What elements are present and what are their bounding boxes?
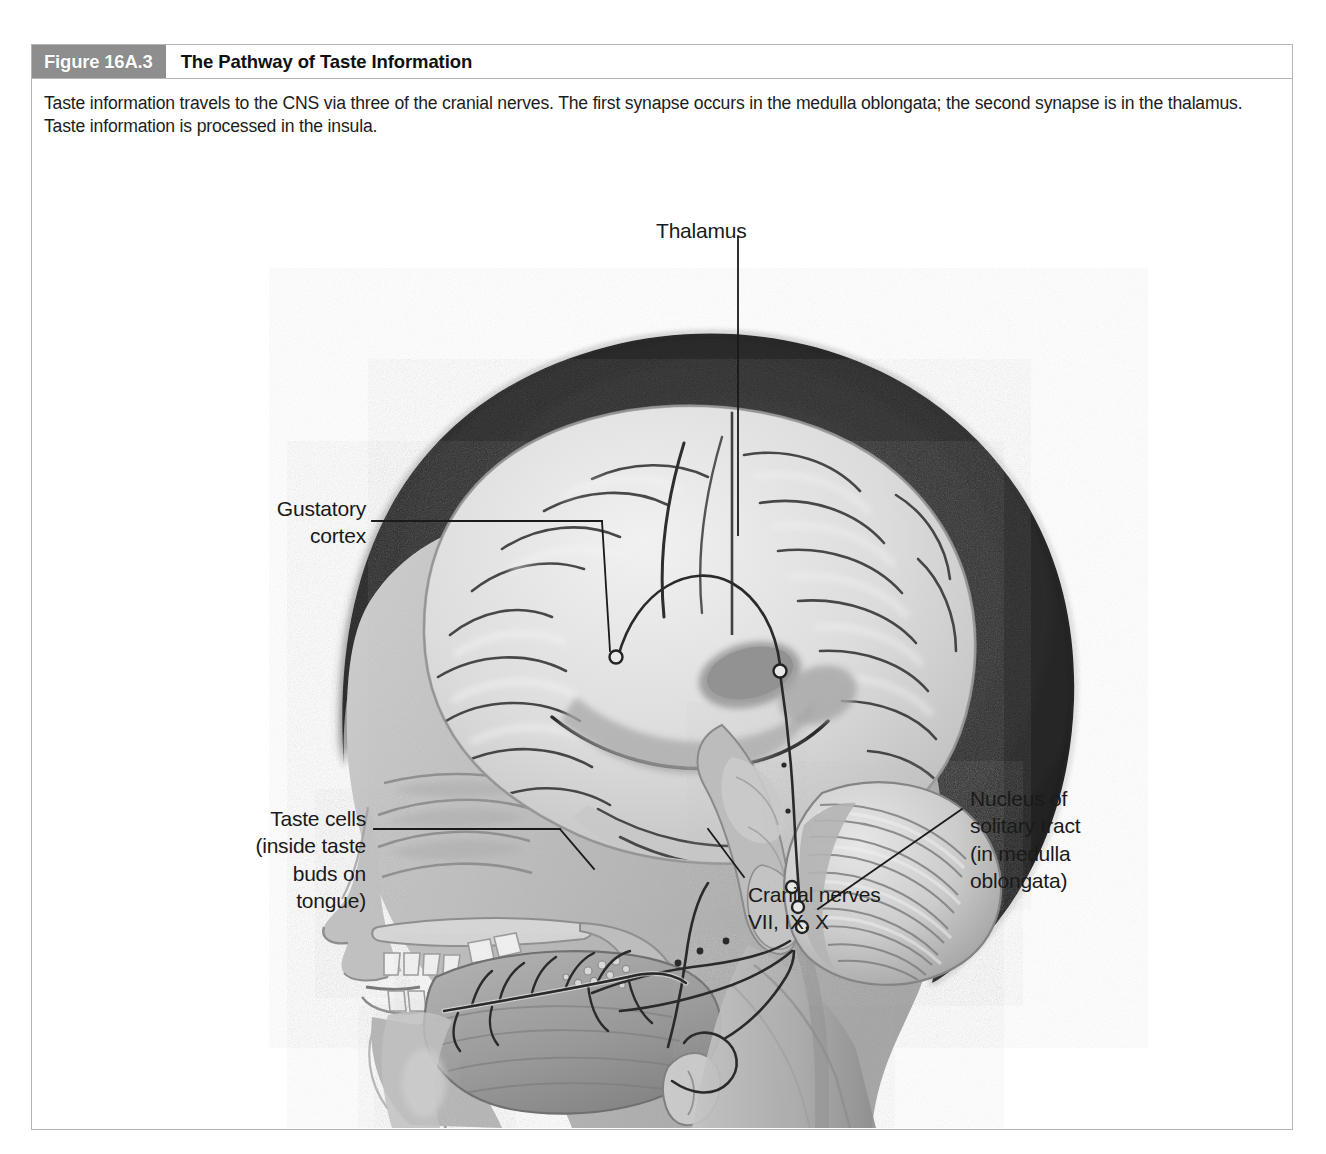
label-nucleus-solitary-tract: Nucleus of solitary tract (in medulla ob… [970,785,1080,894]
synapse-gustatory-cortex [610,651,623,664]
figure-header: Figure 16A.3 The Pathway of Taste Inform… [32,45,1292,79]
label-thalamus: Thalamus [656,217,747,244]
figure-number-badge: Figure 16A.3 [32,45,166,78]
label-taste-cells: Taste cells (inside taste buds on tongue… [210,805,366,914]
figure-title: The Pathway of Taste Information [166,45,1292,78]
illustration-svg [32,165,1292,1128]
label-cranial-nerves: Cranial nerves VII, IX, X [748,881,881,936]
figure-frame: Figure 16A.3 The Pathway of Taste Inform… [31,44,1293,1130]
figure-caption: Taste information travels to the CNS via… [44,92,1282,139]
synapse-thalamus [774,665,787,678]
anatomical-illustration: Thalamus Gustatory cortex Taste cells (i… [32,165,1292,1128]
label-gustatory-cortex: Gustatory cortex [218,495,366,550]
